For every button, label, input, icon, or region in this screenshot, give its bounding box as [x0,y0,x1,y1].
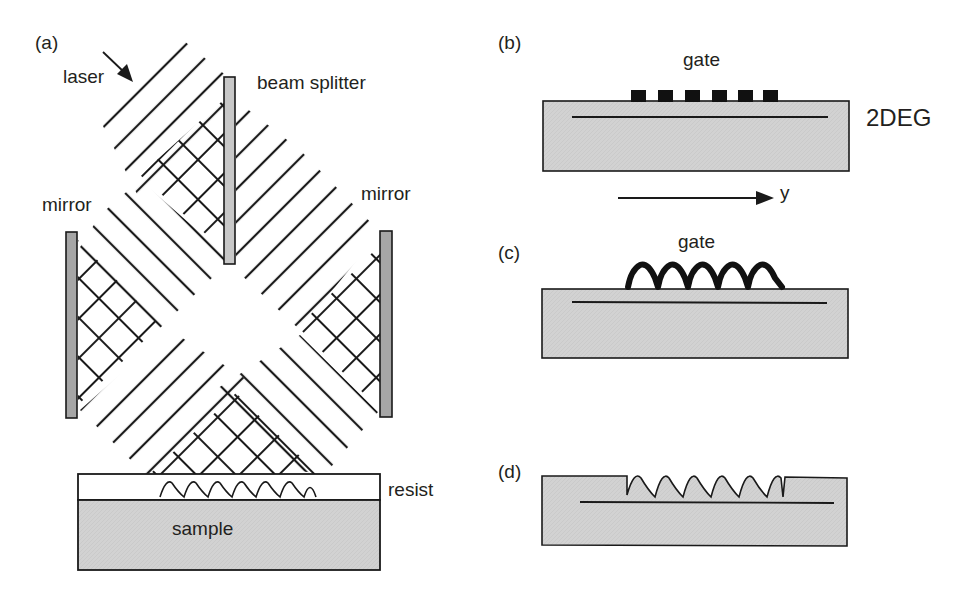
etched-substrate-d [542,476,847,546]
panel-b-label: (b) [498,33,521,52]
y-axis-label: y [780,183,790,202]
panel-a [66,40,392,570]
beam-splitter-label: beam splitter [257,73,366,92]
sample-label: sample [172,519,233,538]
panel-d-label: (d) [498,462,521,481]
right-mirror-label: mirror [361,184,411,203]
gate-label-b: gate [683,50,720,69]
y-axis-arrow-icon [618,191,774,205]
left-mirror [66,232,77,418]
beam-splitter [224,77,235,264]
laser-arrow-icon [103,52,133,82]
gate-label-c: gate [678,232,715,251]
panel-d [542,476,847,546]
left-mirror-label: mirror [42,195,92,214]
gate-fingers [631,90,778,102]
panel-b [543,90,849,205]
figure-canvas [0,0,970,593]
twodeg-layer-c [572,302,827,303]
resist-layer [78,474,380,500]
heterostructure-c [542,289,848,358]
panel-a-label: (a) [35,33,58,52]
panel-c-label: (c) [498,243,520,262]
right-mirror [380,231,392,417]
sinusoidal-gate [628,265,782,287]
twodeg-label: 2DEG [866,106,931,130]
heterostructure-b [543,101,849,171]
twodeg-layer-d [580,502,834,503]
resist-label: resist [388,480,433,499]
laser-label: laser [63,67,104,86]
panel-c [542,265,848,358]
